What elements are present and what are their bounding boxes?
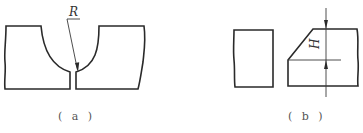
- panel-a: R: [5, 5, 145, 89]
- height-arrow-down-icon: [324, 20, 328, 29]
- square-edge-plate: [234, 30, 273, 87]
- beveled-plate: [288, 29, 358, 86]
- caption-a: ( a ): [58, 110, 95, 123]
- height-symbol-h: H: [308, 38, 322, 50]
- radius-leader-line: [67, 19, 78, 70]
- panel-b: H: [234, 8, 359, 97]
- caption-b: ( b ): [288, 110, 326, 123]
- right-workpiece-a: [76, 26, 145, 89]
- height-arrow-up-icon: [324, 60, 328, 69]
- radius-symbol-r: R: [68, 5, 78, 19]
- left-workpiece-a: [5, 26, 70, 89]
- diagram-canvas: R H ( a ) ( b ): [0, 0, 363, 133]
